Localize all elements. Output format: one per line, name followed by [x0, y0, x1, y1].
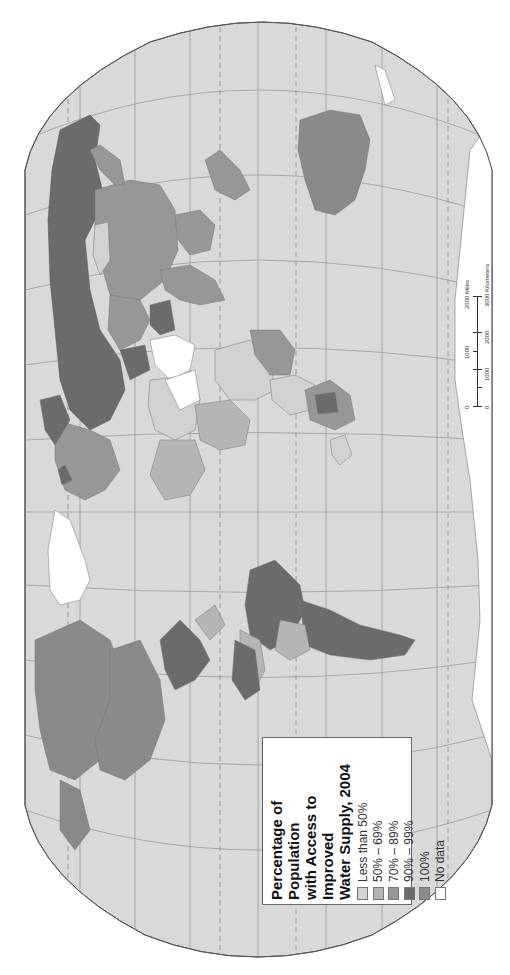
km-label-2000: 2000	[484, 331, 490, 344]
miles-label-2000: 2000 Miles	[464, 280, 470, 309]
swatch-no-data	[435, 887, 446, 900]
scale-tick	[473, 406, 482, 407]
legend-label: 70% – 89%	[387, 821, 401, 882]
legend-label: 100%	[418, 851, 432, 882]
scale-tick	[473, 296, 482, 297]
scale-tick	[478, 369, 482, 370]
legend-title-line3: Water Supply, 2004	[336, 744, 353, 900]
legend-item-100: 100%	[417, 744, 433, 900]
legend-item-no-data: No data	[433, 744, 449, 900]
scale-tick	[473, 332, 477, 333]
miles-label-0: 0	[464, 406, 470, 409]
km-label-1000: 1000	[484, 368, 490, 381]
swatch-70-89	[388, 887, 399, 900]
scale-tick	[478, 387, 482, 388]
legend-label: Less than 50%	[356, 803, 370, 882]
scale-bar: 0 1000 2000 Miles 0 1000 2000 3000 Kilom…	[458, 240, 498, 415]
swatch-90-99	[404, 887, 415, 900]
scale-tick	[473, 369, 477, 370]
legend-title-line1: Percentage of Population	[268, 744, 302, 900]
legend-label: 50% – 69%	[371, 821, 385, 882]
swatch-50-69	[373, 887, 384, 900]
legend-title: Percentage of Population with Access to …	[268, 744, 353, 900]
km-label-0: 0	[484, 406, 490, 409]
legend-title-line2: with Access to Improved	[302, 744, 336, 900]
legend-item-50-69: 50% – 69%	[371, 744, 387, 900]
scale-tick	[478, 332, 482, 333]
legend-content: Percentage of Population with Access to …	[263, 738, 413, 906]
swatch-less-than-50	[357, 887, 368, 900]
legend-item-70-89: 70% – 89%	[386, 744, 402, 900]
swatch-100	[419, 887, 430, 900]
scale-tick	[473, 351, 477, 352]
scale-bar-content: 0 1000 2000 Miles 0 1000 2000 3000 Kilom…	[458, 240, 498, 415]
legend-label: No data	[433, 840, 447, 882]
legend: Percentage of Population with Access to …	[262, 737, 412, 905]
scale-line	[477, 297, 478, 407]
legend-item-less-than-50: Less than 50%	[355, 744, 371, 900]
legend-label: 90% – 99%	[402, 821, 416, 882]
miles-label-1000: 1000	[464, 346, 470, 359]
botswana	[315, 392, 338, 414]
legend-item-90-99: 90% – 99%	[402, 744, 418, 900]
km-label-3000: 3000 Kilometers	[484, 264, 490, 307]
